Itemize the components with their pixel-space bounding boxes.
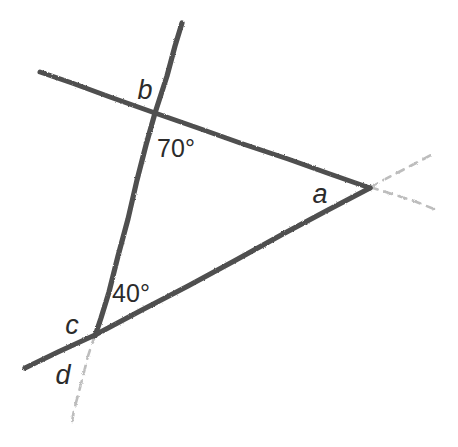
label-c: c — [65, 312, 79, 339]
label-b: b — [137, 77, 152, 104]
geometry-diagram: b 70° a 40° c d — [0, 0, 458, 447]
label-angle-70: 70° — [157, 136, 195, 161]
label-d: d — [55, 362, 70, 389]
label-a: a — [312, 181, 327, 208]
label-angle-40: 40° — [112, 281, 150, 306]
